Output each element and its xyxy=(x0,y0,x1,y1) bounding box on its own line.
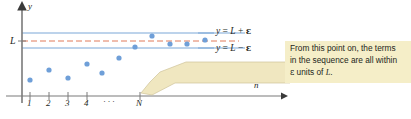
data-point xyxy=(46,67,51,72)
data-point xyxy=(149,33,154,38)
x-tick-label-N: N xyxy=(136,98,142,108)
y-axis-label: y xyxy=(28,1,32,11)
upper-eq-epsilon: ε xyxy=(246,26,251,36)
upper-bound-equation: y = L + ε xyxy=(216,26,251,36)
x-tick-label-ellipsis: ··· xyxy=(103,96,117,106)
sequence-limit-figure: y n L 1 2 3 4 ··· N y = L + ε y = L − ε … xyxy=(0,0,411,119)
lower-eq-equals: = xyxy=(220,43,230,53)
lower-eq-operator: − xyxy=(236,43,246,53)
data-point xyxy=(202,37,207,42)
callout-text: From this point on, the terms in the seq… xyxy=(290,43,411,78)
x-tick-label-2: 2 xyxy=(46,98,51,108)
data-point xyxy=(116,55,121,60)
data-point xyxy=(99,70,104,75)
data-point xyxy=(27,77,32,82)
data-point xyxy=(84,61,89,66)
callout-line-3-end: . xyxy=(330,67,332,77)
callout-line-2: in the sequence are all within xyxy=(290,55,397,65)
callout-arrow xyxy=(141,62,290,95)
upper-eq-operator: + xyxy=(236,26,246,36)
data-point xyxy=(184,41,189,46)
callout-line-3-mid: units of xyxy=(294,67,325,77)
callout-box: From this point on, the terms in the seq… xyxy=(285,41,411,83)
lower-eq-epsilon: ε xyxy=(246,43,251,53)
callout-line-1: From this point on, the terms xyxy=(290,43,396,53)
upper-eq-equals: = xyxy=(220,26,230,36)
data-point xyxy=(167,41,172,46)
lower-bound-equation: y = L − ε xyxy=(216,43,251,53)
limit-value-label: L xyxy=(10,35,16,46)
data-point xyxy=(132,44,137,49)
x-tick-label-1: 1 xyxy=(27,98,32,108)
data-point xyxy=(65,75,70,80)
x-tick-label-4: 4 xyxy=(84,98,89,108)
x-tick-label-3: 3 xyxy=(65,98,70,108)
x-axis-label: n xyxy=(254,80,259,90)
